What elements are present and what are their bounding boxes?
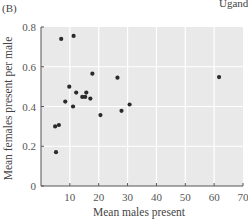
data-point — [119, 109, 123, 113]
x-tick-label: 50 — [180, 191, 192, 203]
data-point — [57, 123, 61, 127]
x-tick-label: 60 — [209, 191, 221, 203]
data-point — [115, 76, 119, 80]
data-point — [98, 113, 102, 117]
data-point — [54, 150, 58, 154]
x-tick-label: 40 — [151, 191, 163, 203]
data-point — [88, 96, 92, 100]
data-point — [72, 34, 76, 38]
y-tick-label: 0.4 — [22, 101, 36, 113]
data-point — [53, 124, 57, 128]
y-tick-label: 0.6 — [22, 61, 36, 73]
scatter-chart: 10203040506070 00.20.40.60.8 Mean males … — [0, 0, 248, 224]
data-point — [63, 99, 67, 103]
x-tick-label: 70 — [238, 191, 249, 203]
data-point — [84, 90, 88, 94]
data-point — [127, 102, 131, 106]
y-axis-title: Mean females present per male — [2, 37, 15, 181]
y-tick-label: 0 — [31, 180, 37, 192]
x-tick-label: 30 — [122, 191, 134, 203]
y-tick-label: 0.8 — [22, 21, 36, 33]
data-point — [74, 90, 78, 94]
data-point — [90, 72, 94, 76]
x-axis-title: Mean males present — [93, 206, 186, 219]
data-point — [59, 37, 63, 41]
data-point — [83, 95, 87, 99]
data-point — [71, 104, 75, 108]
x-tick-label: 10 — [64, 191, 76, 203]
y-tick-label: 0.2 — [22, 140, 36, 152]
data-point — [67, 85, 71, 89]
x-tick-label: 20 — [93, 191, 105, 203]
data-point — [217, 75, 221, 79]
